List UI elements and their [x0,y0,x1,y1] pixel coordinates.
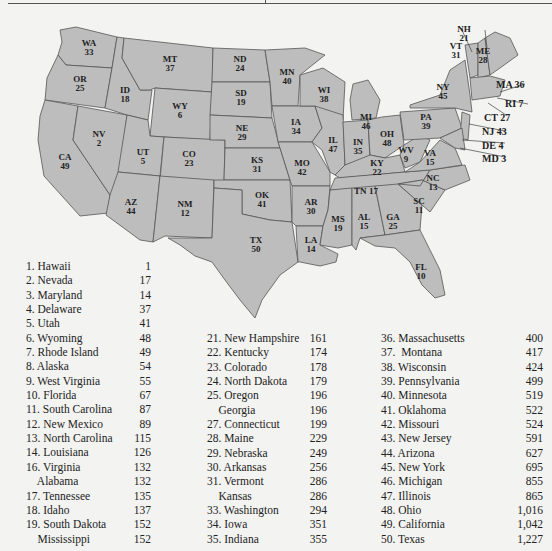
table-row: 17. Tennessee135 [26,489,196,503]
table-row: 3. Maryland14 [26,288,196,302]
state-name: 48. Ohio [381,503,421,517]
state-name: Georgia [207,403,255,417]
state-name: 38. Wisconsin [381,360,446,374]
table-row: 19. South Dakota152 [26,517,196,531]
state-name: 5. Utah [26,316,60,330]
state-name: 25. Oregon [207,388,259,402]
state-value: 249 [310,446,327,460]
state-name: 30. Arkansas [207,460,266,474]
state-value: 1,227 [517,532,543,546]
table-row: 39. Pennsylvania499 [381,374,543,388]
state-name: 3. Maryland [26,288,82,302]
table-row: 9. West Virginia55 [26,374,196,388]
state-value: 229 [310,431,327,445]
state-value: 400 [526,331,543,345]
table-row: 14. Louisiana126 [26,445,196,459]
svg-text:NH21: NH21 [457,24,471,43]
state-value: 286 [310,489,327,503]
state-name: 42. Missouri [381,417,439,431]
state-value: 48 [140,331,152,345]
state-value: 627 [526,446,543,460]
state-name: 27. Connecticut [207,417,280,431]
state-value: 196 [310,403,327,417]
state-name: 13. North Carolina [26,431,113,445]
table-row: Georgia196 [207,403,367,417]
table-row: 50. Texas1,227 [381,532,543,546]
state-name: 44. Arizona [381,446,435,460]
table-row: 45. New York695 [381,460,543,474]
state-value: 178 [310,360,327,374]
table-row: 7. Rhode Island49 [26,345,196,359]
state-name: 14. Louisiana [26,445,89,459]
state-name: 18. Idaho [26,503,69,517]
table-row: 40. Minnesota519 [381,388,543,402]
table-row: 16. Virginia132 [26,460,196,474]
table-row: 8. Alaska54 [26,359,196,373]
state-name: 36. Massachusetts [381,331,465,345]
svg-text:FL10: FL10 [415,262,427,281]
state-name: Alabama [26,474,78,488]
table-column-3: 36. Massachusetts40037. Montana41738. Wi… [381,331,543,546]
table-row: 6. Wyoming48 [26,331,196,345]
state-name: 6. Wyoming [26,331,83,345]
table-row: 11. South Carolina87 [26,402,196,416]
table-row: 29. Nebraska249 [207,446,367,460]
state-value: 135 [134,489,151,503]
table-row: 31. Vermont286 [207,474,367,488]
callout-ct: CT 27 [484,112,510,123]
state-value: 1,016 [517,503,543,517]
table-row: 22. Kentucky174 [207,345,367,359]
state-value: 199 [310,417,327,431]
state-value: 115 [134,431,151,445]
state-value: 152 [134,532,151,546]
svg-text:VT31: VT31 [450,41,463,60]
table-row: 10. Florida67 [26,388,196,402]
svg-text:SC11: SC11 [413,196,425,215]
callout-ri: RI 7 [505,98,524,109]
svg-text:AZ44: AZ44 [125,197,138,216]
state-name: 40. Minnesota [381,388,447,402]
state-value: 1,042 [517,517,543,531]
state-name: 7. Rhode Island [26,345,99,359]
state-value: 865 [526,489,543,503]
svg-text:PA39: PA39 [420,112,432,131]
state-name: 34. Iowa [207,517,247,531]
state-value: 351 [310,517,327,531]
state-value: 41 [140,316,152,330]
state-value: 1 [145,259,151,273]
state-name: 1. Hawaii [26,259,71,273]
state-value: 132 [134,474,151,488]
state-value: 417 [526,345,543,359]
state-name: 29. Nebraska [207,446,268,460]
table-row: 27. Connecticut199 [207,417,367,431]
state-value: 174 [310,345,327,359]
table-row: 48. Ohio1,016 [381,503,543,517]
state-value: 126 [134,445,151,459]
state-name: 35. Indiana [207,532,259,546]
state-value: 67 [140,388,152,402]
table-row: 2. Nevada17 [26,273,196,287]
table-row: 4. Delaware37 [26,302,196,316]
table-row: Kansas286 [207,489,367,503]
state-value: 14 [140,288,152,302]
state-name: 2. Nevada [26,273,73,287]
state-name: 50. Texas [381,532,425,546]
svg-text:TN 17: TN 17 [354,186,378,196]
state-name: 10. Florida [26,388,76,402]
table-row: 46. Michigan855 [381,474,543,488]
state-name: 19. South Dakota [26,517,106,531]
table-row: 37. Montana417 [381,345,543,359]
table-row: 13. North Carolina115 [26,431,196,445]
state-value: 522 [526,403,543,417]
state-name: 16. Virginia [26,460,80,474]
state-value: 152 [134,517,151,531]
svg-text:KS31: KS31 [251,155,263,174]
state-name: 47. Illinois [381,489,431,503]
state-value: 855 [526,474,543,488]
state-value: 355 [310,532,327,546]
table-row: 44. Arizona627 [381,446,543,460]
state-value: 256 [310,460,327,474]
svg-text:SD19: SD19 [235,88,247,107]
state-value: 55 [140,374,152,388]
state-name: 31. Vermont [207,474,264,488]
